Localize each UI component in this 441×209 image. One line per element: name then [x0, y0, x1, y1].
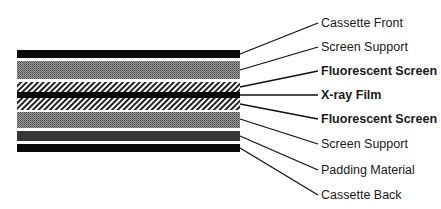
label-fluorescent-screen-back: Fluorescent Screen	[321, 112, 437, 126]
layer-cassette-back	[17, 144, 240, 152]
layer-screen-support-back	[17, 112, 240, 128]
layer-fluorescent-screen-front	[17, 82, 240, 92]
leader-line-fluorescent-screen-front	[240, 71, 318, 87]
layer-stack	[0, 0, 441, 209]
leader-line-padding-material	[240, 136, 318, 170]
leader-line-screen-support-front	[240, 47, 318, 70]
label-cassette-back: Cassette Back	[321, 188, 402, 202]
leader-line-cassette-back	[240, 148, 318, 195]
leader-line-screen-support-back	[240, 119, 318, 144]
leader-line-cassette-front	[240, 23, 318, 54]
layer-screen-support-front	[17, 61, 240, 79]
layer-xray-film	[17, 92, 240, 98]
leader-line-fluorescent-screen-back	[240, 104, 318, 119]
label-screen-support-back: Screen Support	[321, 137, 408, 151]
label-cassette-front: Cassette Front	[321, 16, 403, 30]
layer-cassette-front	[17, 50, 240, 58]
layer-fluorescent-screen-back	[17, 98, 240, 110]
xray-cassette-diagram	[0, 0, 441, 209]
label-xray-film: X-ray Film	[321, 88, 381, 102]
label-fluorescent-screen-front: Fluorescent Screen	[321, 64, 437, 78]
label-screen-support-front: Screen Support	[321, 40, 408, 54]
label-padding-material: Padding Material	[321, 163, 415, 177]
layer-padding-material	[17, 131, 240, 141]
